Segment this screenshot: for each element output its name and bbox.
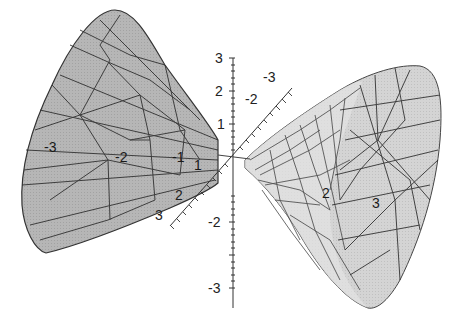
- v-tick-neg3: -3: [208, 280, 221, 296]
- surface-label-neg2: -2: [115, 149, 128, 165]
- left-cone-surface: -3 -2 -1 1: [22, 10, 218, 253]
- d-tick-2: 2: [175, 187, 183, 203]
- v-tick-2: 2: [215, 83, 223, 99]
- surface-label-2: 2: [322, 185, 330, 201]
- d-tick-neg3: -3: [263, 69, 276, 85]
- right-cone-surface: 2 3: [245, 66, 441, 309]
- 3d-surface-plot: -3 -2 -1 1: [0, 0, 462, 329]
- d-tick-3: 3: [155, 207, 163, 223]
- v-tick-1: 1: [217, 116, 225, 132]
- v-tick-neg2: -2: [208, 214, 221, 230]
- d-tick-neg2: -2: [245, 91, 258, 107]
- surface-label-neg3: -3: [44, 139, 57, 155]
- vertical-axis: [229, 58, 235, 308]
- surface-label-1: 1: [194, 157, 202, 173]
- surface-label-neg1: -1: [172, 149, 185, 165]
- surface-label-3: 3: [372, 195, 380, 211]
- v-tick-3: 3: [215, 50, 223, 66]
- horizontal-axis: [218, 155, 250, 159]
